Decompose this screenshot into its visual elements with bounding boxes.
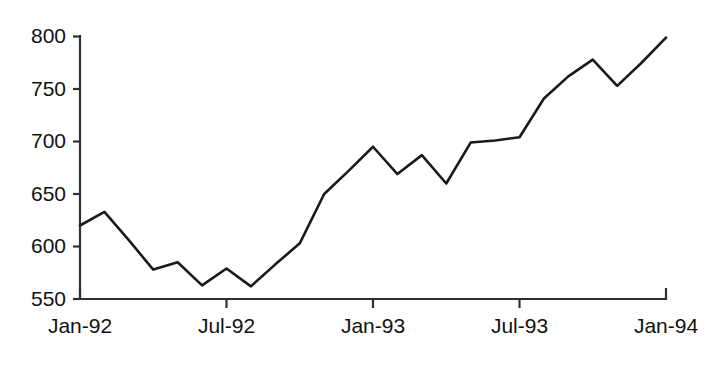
line-chart: 550600650700750800 Jan-92Jul-92Jan-93Jul… [0, 0, 716, 366]
y-axis-tick-labels: 550600650700750800 [31, 24, 66, 310]
x-axis-tick-labels: Jan-92Jul-92Jan-93Jul-93Jan-94 [48, 314, 699, 337]
y-axis-tick-label: 650 [31, 182, 66, 205]
x-axis-tick-label: Jan-92 [48, 314, 112, 337]
y-axis-tick-label: 700 [31, 129, 66, 152]
x-axis-tick-label: Jan-94 [634, 314, 699, 337]
y-axis-tick-label: 600 [31, 234, 66, 257]
x-axis-tick-label: Jul-93 [491, 314, 548, 337]
y-axis-tick-label: 550 [31, 287, 66, 310]
y-axis-tick-label: 800 [31, 24, 66, 47]
chart-canvas: 550600650700750800 Jan-92Jul-92Jan-93Jul… [0, 0, 716, 366]
x-axis-tick-label: Jan-93 [341, 314, 405, 337]
y-axis-tick-label: 750 [31, 77, 66, 100]
data-series-line [80, 38, 666, 287]
x-axis-tick-label: Jul-92 [198, 314, 255, 337]
